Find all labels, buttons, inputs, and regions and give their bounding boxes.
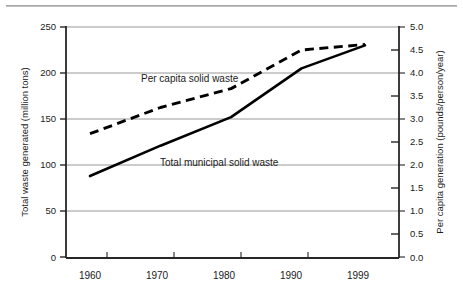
left-axis-ticklabels: 250 200 150 100 50 0 bbox=[40, 21, 56, 263]
x-ticklabel-1980: 1980 bbox=[213, 270, 236, 281]
right-ticklabel-0-0: 0.0 bbox=[410, 252, 423, 263]
x-axis-ticklabels: 1960 1970 1980 1990 1999 bbox=[79, 270, 370, 281]
right-ticklabel-1-5: 1.5 bbox=[410, 182, 423, 193]
right-ticklabel-3-0: 3.0 bbox=[410, 113, 423, 124]
right-ticklabel-3-5: 3.5 bbox=[410, 90, 423, 101]
left-ticklabel-250: 250 bbox=[40, 21, 56, 32]
right-ticklabel-1-0: 1.0 bbox=[410, 205, 423, 216]
series-label-total-municipal: Total municipal solid waste bbox=[160, 157, 279, 168]
gridlines bbox=[66, 27, 399, 211]
left-ticklabel-50: 50 bbox=[45, 205, 56, 216]
right-axis-ticklabels: 5.0 4.5 4.0 3.5 3.0 2.5 2.0 1.5 1.0 0.5 … bbox=[410, 21, 423, 263]
left-axis-title: Total waste generated (million tons) bbox=[19, 67, 30, 216]
x-ticklabel-1990: 1990 bbox=[280, 270, 303, 281]
right-ticklabel-2-5: 2.5 bbox=[410, 136, 423, 147]
right-ticklabel-4-0: 4.0 bbox=[410, 67, 423, 78]
series-label-per-capita: Per capita solid waste bbox=[141, 73, 239, 84]
left-ticklabel-100: 100 bbox=[40, 159, 56, 170]
x-ticklabel-1960: 1960 bbox=[79, 270, 102, 281]
figure-container: 250 200 150 100 50 0 Total waste generat… bbox=[0, 0, 463, 303]
x-ticklabel-1970: 1970 bbox=[146, 270, 169, 281]
right-ticklabel-2-0: 2.0 bbox=[410, 159, 423, 170]
series-per-capita-solid-waste bbox=[90, 44, 365, 133]
waste-generation-line-chart: 250 200 150 100 50 0 Total waste generat… bbox=[0, 0, 463, 303]
left-ticklabel-200: 200 bbox=[40, 67, 56, 78]
left-ticklabel-150: 150 bbox=[40, 113, 56, 124]
right-ticklabel-4-5: 4.5 bbox=[410, 44, 423, 55]
left-ticklabel-0: 0 bbox=[51, 252, 56, 263]
right-axis-title: Per capita generation (pounds/person/yea… bbox=[434, 50, 445, 233]
left-axis bbox=[60, 26, 66, 258]
x-ticklabel-1999: 1999 bbox=[347, 270, 370, 281]
x-axis bbox=[66, 252, 399, 258]
right-ticklabel-0-5: 0.5 bbox=[410, 228, 423, 239]
right-ticklabel-5-0: 5.0 bbox=[410, 21, 423, 32]
right-axis bbox=[391, 26, 405, 258]
